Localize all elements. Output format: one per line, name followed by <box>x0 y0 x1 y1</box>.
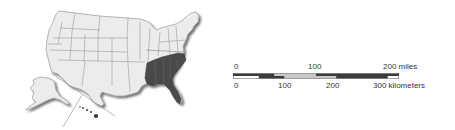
alaska-inset <box>26 77 70 110</box>
scale-miles-segment <box>233 74 275 77</box>
scale-km-label-100: 100 <box>278 82 291 90</box>
scale-km-label-300: 300 kilometers <box>373 82 425 90</box>
scale-km-segment <box>259 76 285 79</box>
scale-km-label-200: 200 <box>326 82 339 90</box>
scale-miles-label-200: 200 miles <box>383 63 417 71</box>
scale-miles-segment <box>316 74 399 77</box>
scale-miles-label-0: 0 <box>234 63 238 71</box>
scale-bar <box>233 73 399 79</box>
scale-km-segment <box>285 76 337 79</box>
scale-km-label-0: 0 <box>234 82 238 90</box>
scale-km-segment <box>233 76 259 79</box>
scale-miles-segment <box>275 74 317 77</box>
scale-miles-label-100: 100 <box>308 63 321 71</box>
hawaii-inset <box>79 106 98 118</box>
scale-km-segment <box>336 76 388 79</box>
us-map <box>0 0 210 130</box>
